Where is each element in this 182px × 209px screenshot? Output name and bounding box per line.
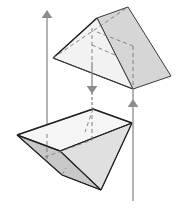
lower-wedge bbox=[17, 109, 132, 190]
exploded-solid-diagram bbox=[0, 0, 182, 209]
diagram-canvas bbox=[0, 0, 182, 209]
upper-wedge bbox=[53, 7, 171, 89]
